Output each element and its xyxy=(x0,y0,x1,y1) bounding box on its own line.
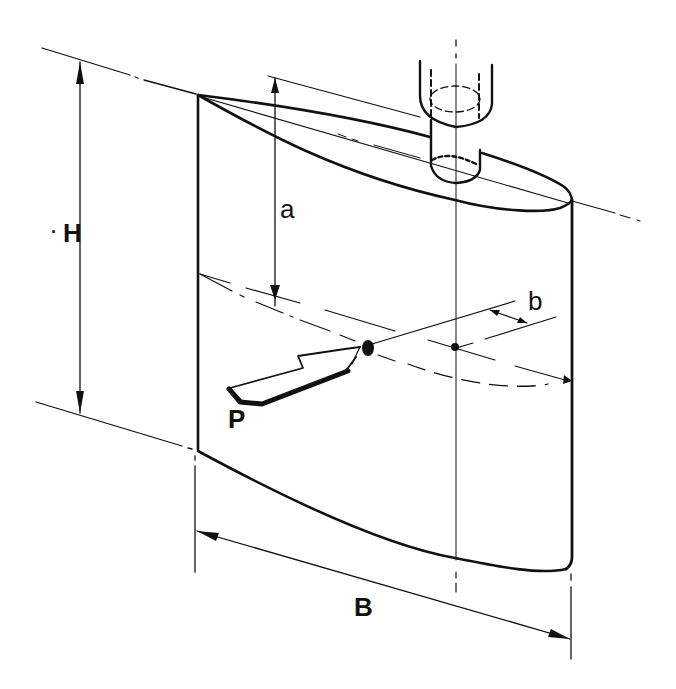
a-dimension xyxy=(270,78,280,306)
label-P: P xyxy=(228,406,245,432)
label-a: a xyxy=(280,196,294,222)
bottom-extension-line xyxy=(36,402,192,449)
label-H: ·H xyxy=(51,220,82,246)
force-arrow-P xyxy=(229,347,360,404)
label-H-prefix: · xyxy=(51,222,57,242)
top-centerline-dashes xyxy=(338,134,420,158)
blade-bottom-edge xyxy=(198,451,566,571)
rudder-diagram: ·H a b P B xyxy=(0,0,676,689)
mid-section-profile xyxy=(408,364,548,386)
blade-trailing-edge xyxy=(566,200,572,569)
label-H-text: H xyxy=(63,218,82,248)
center-of-pressure xyxy=(362,340,374,356)
B-dimension xyxy=(197,531,570,639)
b-dimension xyxy=(490,310,527,323)
label-b: b xyxy=(528,288,542,314)
label-B: B xyxy=(354,594,373,620)
rudder-stock xyxy=(420,40,492,592)
rudder-drawing xyxy=(0,0,676,689)
top-extension-line xyxy=(42,48,196,94)
B-extension-lines xyxy=(195,456,571,659)
stock-axis-point xyxy=(451,343,459,351)
top-chord-line xyxy=(202,97,568,203)
top-profile-upper xyxy=(198,95,430,137)
top-profile-upper-right xyxy=(482,153,572,202)
